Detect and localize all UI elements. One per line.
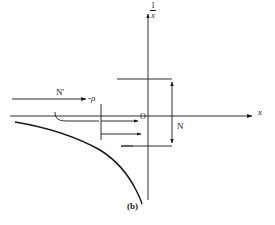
hook-curve — [55, 112, 99, 121]
y-axis-label-denominator: x — [150, 11, 156, 20]
figure-caption: (b) — [127, 202, 138, 211]
aperture-label: N — [177, 122, 184, 131]
figure-container: 1 x x N' -ρ O N (b) — [0, 0, 275, 225]
figure-drawing — [0, 0, 275, 225]
x-axis-label: x — [258, 108, 262, 117]
origin-label: O — [140, 113, 146, 121]
object-point-label: -ρ — [88, 94, 95, 103]
incident-ray-label: N' — [56, 88, 64, 97]
y-axis-label-numerator: 1 — [150, 2, 156, 11]
y-axis-label: 1 x — [150, 2, 156, 20]
